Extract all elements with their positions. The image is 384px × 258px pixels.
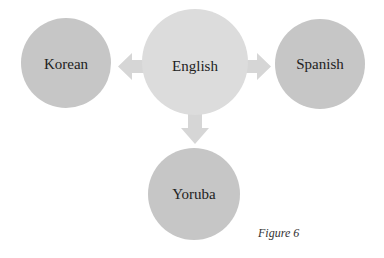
node-english-label: English: [172, 58, 218, 75]
arrow-to-yoruba: [181, 110, 209, 144]
figure-caption: Figure 6: [258, 226, 299, 241]
diagram-canvas: [0, 0, 384, 258]
node-korean-label: Korean: [44, 56, 88, 73]
node-spanish-label: Spanish: [296, 56, 344, 73]
node-yoruba-label: Yoruba: [172, 186, 215, 203]
